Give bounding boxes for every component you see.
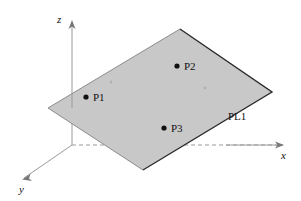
plane-pl1 <box>48 29 272 170</box>
y-axis-line <box>24 145 72 178</box>
plane-texture <box>48 29 272 170</box>
point-p2-dot <box>174 63 179 68</box>
plane-pl1-label: PL1 <box>228 111 246 122</box>
point-p3-dot <box>161 125 166 130</box>
plane-diagram-figure: z y x P1 P2 P3 PL1 <box>0 0 301 201</box>
z-axis-label: z <box>57 14 61 25</box>
x-axis-label: x <box>281 150 286 161</box>
y-axis-label: y <box>19 184 24 195</box>
point-p2-label: P2 <box>184 61 196 72</box>
point-p1-label: P1 <box>93 92 105 103</box>
point-p1-dot <box>83 94 88 99</box>
y-axis-arrowhead <box>22 174 32 181</box>
faint-mark-left <box>110 81 113 84</box>
diagram-canvas <box>0 0 301 201</box>
faint-mark-right <box>204 87 207 90</box>
point-p3-label: P3 <box>171 123 183 134</box>
